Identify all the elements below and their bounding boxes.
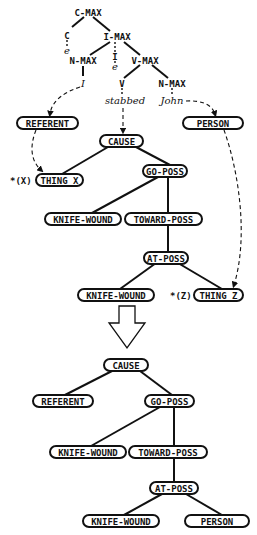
lcs-composition-diagram: C-MAX C e I-MAX N-MAX I I e V-MAX V stab… (0, 0, 257, 535)
thing-x-node: THING X (36, 174, 83, 186)
svg-text:TOWARD-POSS: TOWARD-POSS (134, 215, 194, 225)
toward-poss-node: TOWARD-POSS (125, 213, 202, 225)
cause-node: CAUSE (100, 135, 143, 147)
svg-text:GO-POSS: GO-POSS (146, 167, 184, 177)
i-max-node: I-MAX (103, 32, 131, 42)
go-poss-node: GO-POSS (143, 165, 187, 177)
svg-text:REFERENT: REFERENT (41, 397, 85, 407)
edge-cmax-c (72, 17, 84, 27)
i-empty: e (112, 61, 118, 72)
referent-node: REFERENT (33, 395, 93, 407)
knife-wound-node-2: KNIFE-WOUND (83, 515, 159, 527)
c-max-node: C-MAX (74, 8, 102, 18)
thing-z-node: THING Z (194, 289, 243, 301)
edge-go-poss-knife-wound (91, 407, 160, 446)
svg-text:PERSON: PERSON (201, 517, 234, 527)
toward-poss-node: TOWARD-POSS (129, 446, 207, 458)
svg-text:GO-POSS: GO-POSS (151, 397, 189, 407)
edge-cause-referent (63, 371, 112, 396)
edge-at-poss-thing-z (178, 263, 222, 289)
edge-cmax-imax (93, 17, 110, 31)
referent-node: REFERENT (17, 117, 78, 129)
go-poss-node: GO-POSS (145, 395, 194, 407)
svg-text:THING Z: THING Z (200, 291, 239, 301)
v-node: V (119, 79, 125, 89)
link-referent-thing-x (32, 130, 41, 170)
z-marker: *(Z) (170, 291, 192, 301)
c-node: C (64, 31, 69, 41)
knife-wound-node: KNIFE-WOUND (45, 213, 121, 225)
svg-text:KNIFE-WOUND: KNIFE-WOUND (86, 291, 146, 301)
n-max-subject-node: N-MAX (69, 56, 97, 66)
at-poss-node: AT-POSS (150, 482, 198, 494)
cause-node: CAUSE (104, 359, 148, 371)
lcs-before-tree: REFERENT PERSON CAUSE *(X) THING X GO-PO… (10, 87, 243, 301)
n-max-object-node: N-MAX (158, 79, 186, 89)
link-person-thing-z (224, 130, 241, 285)
c-empty: e (64, 45, 70, 56)
v-max-node: V-MAX (131, 56, 159, 66)
edge-vmax-v (124, 65, 140, 78)
svg-text:AT-POSS: AT-POSS (147, 254, 185, 264)
lcs-after-tree: CAUSE REFERENT GO-POSS KNIFE-WOUND TOWAR… (33, 359, 249, 527)
edge-imax-nmax (90, 42, 110, 55)
svg-text:KNIFE-WOUND: KNIFE-WOUND (53, 215, 113, 225)
edge-cause-go-poss (140, 371, 172, 395)
edge-vmax-nmax (152, 65, 168, 78)
svg-text:AT-POSS: AT-POSS (155, 484, 193, 494)
knife-wound-node-2: KNIFE-WOUND (78, 289, 154, 301)
svg-text:THING X: THING X (41, 176, 80, 186)
person-node: PERSON (183, 117, 243, 129)
svg-text:PERSON: PERSON (197, 119, 230, 129)
edge-go-poss-knife-wound (92, 177, 158, 213)
svg-text:KNIFE-WOUND: KNIFE-WOUND (91, 517, 151, 527)
object-word: John (159, 95, 184, 106)
svg-text:TOWARD-POSS: TOWARD-POSS (138, 448, 198, 458)
edge-imax-vmax (124, 42, 140, 55)
person-node: PERSON (185, 515, 249, 527)
edge-cause-thing-x (62, 147, 108, 174)
subject-word: I (80, 78, 86, 89)
edge-at-poss-knife-wound (124, 494, 162, 515)
link-object-person (186, 101, 215, 114)
at-poss-node: AT-POSS (144, 252, 188, 264)
link-subject-referent (50, 87, 80, 114)
edge-cause-go-poss (136, 147, 170, 165)
verb-word: stabbed (105, 95, 145, 106)
x-marker: *(X) (10, 176, 32, 186)
svg-text:CAUSE: CAUSE (108, 137, 135, 147)
svg-text:KNIFE-WOUND: KNIFE-WOUND (58, 448, 118, 458)
knife-wound-node: KNIFE-WOUND (50, 446, 126, 458)
down-arrow-icon (109, 306, 145, 348)
svg-text:CAUSE: CAUSE (112, 361, 139, 371)
edge-at-poss-knife-wound (120, 263, 156, 289)
syntax-tree: C-MAX C e I-MAX N-MAX I I e V-MAX V stab… (64, 8, 186, 106)
edge-at-poss-person (186, 494, 222, 515)
svg-text:REFERENT: REFERENT (26, 119, 70, 129)
